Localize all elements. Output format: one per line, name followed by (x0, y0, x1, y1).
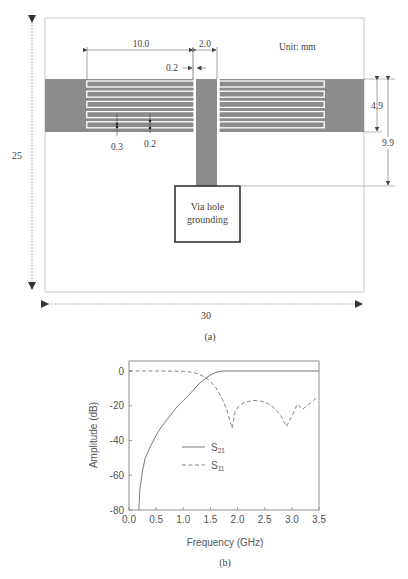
right-interdigital-fingers (218, 79, 325, 132)
x-tick-label: 3.5 (312, 514, 326, 525)
dim-stub-width: 2.0 (199, 39, 211, 49)
y-tick-label: -20 (110, 400, 125, 411)
center-stub (196, 79, 217, 186)
dim-stub-length: 9.9 (382, 138, 394, 148)
figure-b-chart: 0-20-40-60-80 0.00.51.01.52.02.53.03.5 S… (88, 361, 326, 569)
x-axis-label: Frequency (GHz) (187, 537, 264, 548)
right-pad (325, 79, 364, 132)
left-interdigital-fingers (86, 79, 195, 132)
plot-frame (129, 361, 319, 510)
dim-gap-stub: 0.2 (166, 63, 178, 73)
board-width-label: 30 (201, 310, 211, 321)
caption-b: (b) (219, 557, 231, 569)
via-label-line2: grounding (187, 214, 228, 225)
x-tick-label: 2.5 (258, 514, 272, 525)
x-tick-label: 1.5 (203, 514, 217, 525)
dim-band-height: 4.9 (371, 101, 383, 111)
x-tick-label: 0.5 (149, 514, 163, 525)
via-label-line1: Via hole (191, 201, 225, 212)
y-tick-label: 0 (118, 366, 124, 377)
dim-line-width: 0.2 (144, 139, 156, 149)
x-tick-label: 0.0 (122, 514, 136, 525)
figure-canvas: Via hole grounding Unit: mm 10.0 2.0 0.2… (0, 0, 408, 579)
figure-a-layout: Via hole grounding Unit: mm 10.0 2.0 0.2… (12, 18, 397, 343)
y-tick-labels: 0-20-40-60-80 (110, 366, 125, 516)
caption-a: (a) (204, 331, 215, 343)
x-tick-labels: 0.00.51.01.52.02.53.03.5 (122, 514, 326, 525)
x-tick-label: 3.0 (285, 514, 299, 525)
y-tick-label: -40 (110, 435, 125, 446)
left-pad (45, 79, 86, 132)
board-height-label: 25 (12, 150, 22, 161)
unit-label: Unit: mm (279, 42, 316, 52)
dim-finger-length: 10.0 (133, 39, 150, 49)
x-tick-label: 2.0 (231, 514, 245, 525)
y-axis-label: Amplitude (dB) (88, 402, 99, 468)
y-tick-label: -60 (110, 470, 125, 481)
dim-slot-width: 0.3 (111, 142, 123, 152)
x-tick-label: 1.0 (176, 514, 190, 525)
